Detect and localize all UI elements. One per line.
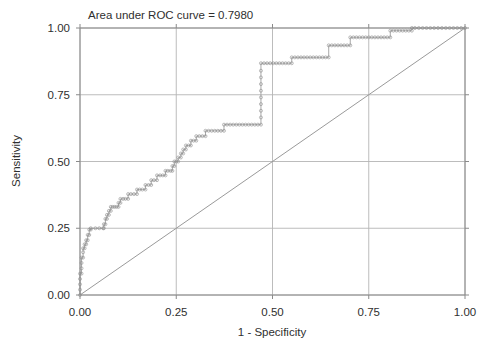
y-tick-label: 0.25: [48, 222, 70, 234]
y-tick-label: 0.50: [48, 156, 70, 168]
y-tick-label: 0.00: [48, 289, 70, 301]
y-axis-title: Sensitivity: [10, 135, 22, 187]
figure-background: [0, 0, 494, 345]
chart-title: Area under ROC curve = 0.7980: [88, 9, 253, 21]
y-tick-label: 0.75: [48, 89, 70, 101]
x-tick-label: 0.25: [165, 306, 187, 318]
x-tick-label: 1.00: [454, 306, 476, 318]
x-tick-label: 0.50: [261, 306, 283, 318]
x-axis-title: 1 - Specificity: [238, 326, 307, 338]
roc-curve-figure: Area under ROC curve = 0.7980 0.000.250.…: [0, 0, 494, 345]
y-tick-label: 1.00: [48, 22, 70, 34]
x-tick-label: 0.00: [69, 306, 91, 318]
roc-chart-svg: Area under ROC curve = 0.7980 0.000.250.…: [0, 0, 494, 345]
x-tick-label: 0.75: [358, 306, 380, 318]
